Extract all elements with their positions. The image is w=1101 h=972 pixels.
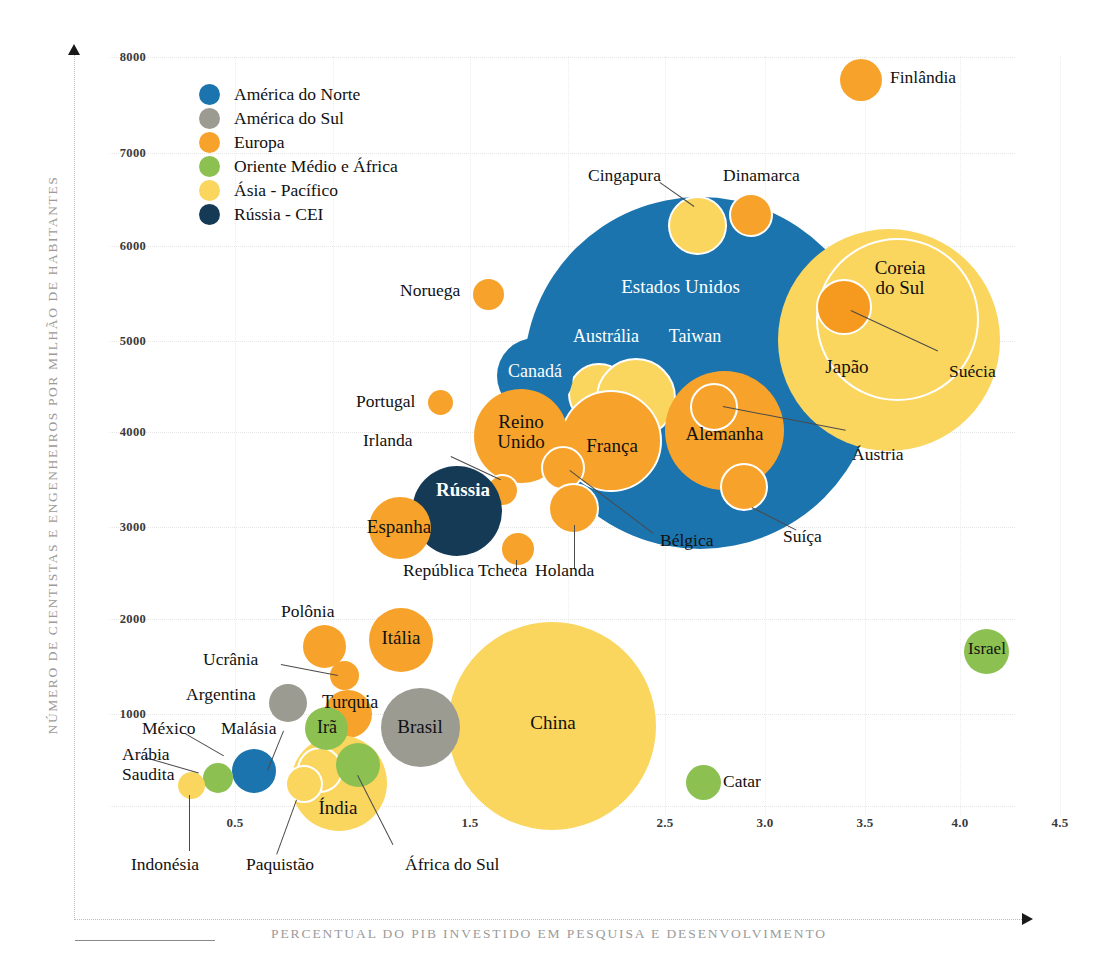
- y-axis-arrow-icon: [68, 44, 80, 55]
- gridcol-4-0: [960, 56, 962, 816]
- x-axis-line: [74, 919, 1024, 920]
- legend-item-europa[interactable]: Europa: [199, 130, 398, 154]
- label-holanda: Holanda: [535, 561, 594, 580]
- bubble-malasia[interactable]: [232, 749, 276, 793]
- y-tick-1000: 1000: [100, 707, 146, 722]
- bubble-label-coreia-do-sul: Coreia do Sul: [865, 258, 935, 298]
- label-irlanda: Irlanda: [363, 431, 413, 450]
- x-tick-1-5: 1.5: [450, 815, 490, 831]
- y-tick-3000: 3000: [100, 520, 146, 535]
- bubble-label-india: Índia: [303, 798, 373, 818]
- bubble-label-japao: Japão: [807, 357, 887, 377]
- label-malasia: Malásia: [221, 719, 276, 738]
- bubble-noruega[interactable]: [473, 279, 504, 310]
- gridcol-4-5: [1060, 56, 1062, 816]
- bubble-argentina[interactable]: [269, 684, 307, 722]
- legend-label-america-do-sul: América do Sul: [234, 108, 344, 129]
- label-paquistao: Paquistão: [246, 855, 314, 874]
- x-tick-4-0: 4.0: [940, 815, 980, 831]
- legend-item-america-do-norte[interactable]: América do Norte: [199, 82, 398, 106]
- legend-swatch-america-do-norte: [199, 84, 220, 105]
- bubble-portugal[interactable]: [428, 390, 453, 415]
- bubble-africa-do-sul[interactable]: [336, 743, 380, 787]
- label-ucrania: Ucrânia: [203, 650, 258, 669]
- bubble-label-israel: Israel: [963, 640, 1011, 658]
- gridline-8000: [110, 57, 1015, 59]
- label-suecia: Suécia: [949, 362, 996, 381]
- legend-item-oriente-medio-e-africa[interactable]: Oriente Médio e África: [199, 154, 398, 178]
- label-belgica: Bélgica: [660, 531, 713, 550]
- legend-item-russia-cei[interactable]: Rússia - CEI: [199, 202, 398, 226]
- bubble-label-canada: Canadá: [495, 362, 575, 381]
- bubble-label-espanha: Espanha: [345, 517, 453, 537]
- legend-swatch-oriente-medio-e-africa: [199, 156, 220, 177]
- y-tick-7000: 7000: [100, 146, 146, 161]
- legend-label-russia-cei: Rússia - CEI: [234, 204, 323, 225]
- gridline-2000: [110, 619, 1015, 621]
- bubble-catar[interactable]: [686, 765, 721, 800]
- label-suica: Suíça: [783, 527, 822, 546]
- label-republica-tcheca: República Tcheca: [403, 561, 527, 580]
- bubble-label-italia: Itália: [374, 628, 428, 648]
- y-axis-line: [74, 48, 75, 920]
- label-dinamarca: Dinamarca: [723, 166, 800, 185]
- bubble-suecia[interactable]: [816, 279, 872, 335]
- label-polonia: Polônia: [281, 602, 334, 621]
- cropped-page-title: [0, 0, 1101, 2]
- x-axis-arrow-icon: [1022, 913, 1033, 925]
- y-axis-title: NÚMERO DE CIENTISTAS E ENGENHEIROS POR M…: [45, 105, 61, 805]
- bubble-label-australia: Austrália: [551, 327, 661, 346]
- legend-swatch-asia-pacifico: [199, 180, 220, 201]
- bubble-finlandia[interactable]: [840, 59, 882, 101]
- x-axis-title: PERCENTUAL DO PIB INVESTIDO EM PESQUISA …: [74, 926, 1024, 942]
- bubble-label-taiwan: Taiwan: [650, 327, 740, 346]
- x-tick-3-5: 3.5: [845, 815, 885, 831]
- label-noruega: Noruega: [400, 281, 460, 300]
- y-tick-8000: 8000: [100, 50, 146, 65]
- bubble-label-brasil: Brasil: [385, 717, 455, 737]
- bubble-label-alemanha: Alemanha: [668, 424, 781, 444]
- label-catar: Catar: [723, 772, 761, 791]
- x-tick-0-5: 0.5: [215, 815, 255, 831]
- label-cingapura: Cingapura: [588, 166, 661, 185]
- label-africa-do-sul: África do Sul: [405, 855, 499, 874]
- x-tick-2-5: 2.5: [645, 815, 685, 831]
- legend-item-america-do-sul[interactable]: América do Sul: [199, 106, 398, 130]
- label-portugal: Portugal: [356, 392, 415, 411]
- label-mexico: México: [142, 719, 195, 738]
- x-tick-3-0: 3.0: [745, 815, 785, 831]
- leader-indonesia: [189, 795, 190, 851]
- bubble-label-franca: França: [578, 436, 646, 456]
- y-tick-5000: 5000: [100, 334, 146, 349]
- legend-item-asia-pacifico[interactable]: Ásia - Pacífico: [199, 178, 398, 202]
- legend-label-america-do-norte: América do Norte: [234, 84, 360, 105]
- legend-label-asia-pacifico: Ásia - Pacífico: [234, 180, 338, 201]
- bubble-cingapura[interactable]: [668, 196, 727, 255]
- label-argentina: Argentina: [186, 685, 256, 704]
- legend-label-europa: Europa: [234, 132, 285, 153]
- label-indonesia: Indonésia: [131, 855, 199, 874]
- legend-label-oriente-medio-e-africa: Oriente Médio e África: [234, 156, 398, 177]
- bubble-label-reino-unido: Reino Unido: [471, 412, 571, 452]
- label-austria: Áustria: [852, 445, 904, 464]
- label-finlandia: Finlândia: [890, 68, 956, 87]
- bubble-label-russia: Rússia: [424, 480, 502, 500]
- chart-canvas: 8000 7000 6000 5000 4000 3000 2000 1000 …: [0, 0, 1101, 972]
- bubble-label-ira: Irã: [308, 718, 346, 737]
- bubble-suica[interactable]: [720, 463, 768, 511]
- bubble-label-turquia: Turquia: [322, 693, 377, 712]
- bubble-arabia-saudita[interactable]: [178, 772, 205, 799]
- bubble-label-estados-unidos: Estados Unidos: [593, 277, 768, 297]
- bubble-mexico[interactable]: [203, 763, 233, 793]
- y-tick-2000: 2000: [100, 612, 146, 627]
- legend: América do Norte América do Sul Europa O…: [199, 82, 398, 226]
- label-arabia-saudita: Arábia Saudita: [122, 745, 175, 784]
- bubble-dinamarca[interactable]: [729, 193, 773, 237]
- bubble-label-china: China: [513, 713, 593, 733]
- footnote-rule: [75, 940, 215, 941]
- y-tick-4000: 4000: [100, 425, 146, 440]
- x-tick-4-5: 4.5: [1040, 815, 1080, 831]
- legend-swatch-america-do-sul: [199, 108, 220, 129]
- legend-swatch-europa: [199, 132, 220, 153]
- y-tick-6000: 6000: [100, 239, 146, 254]
